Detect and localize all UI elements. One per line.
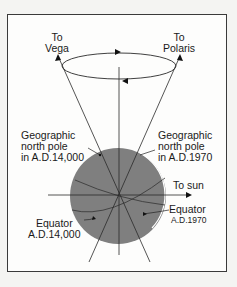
label-line: Polaris <box>163 43 195 54</box>
label-line: Equator <box>169 204 206 215</box>
label-line: A.D.1970 <box>169 215 206 226</box>
label-pole-14000: Geographic north pole in A.D.14,000 <box>21 130 84 163</box>
label-equator-1970: Equator A.D.1970 <box>169 204 206 226</box>
label-line: in A.D.1970 <box>158 152 212 163</box>
label-to-sun: To sun <box>173 180 204 191</box>
label-equator-14000: Equator A.D.14,000 <box>28 218 81 240</box>
vega-arrow-icon <box>55 54 61 61</box>
label-to-polaris: To Polaris <box>163 32 195 54</box>
label-line: Vega <box>45 43 69 54</box>
sun-arrow-icon <box>186 192 192 198</box>
label-pole-1970: Geographic north pole in A.D.1970 <box>158 130 212 163</box>
label-line: A.D.14,000 <box>28 229 81 240</box>
label-line: in A.D.14,000 <box>21 152 84 163</box>
polaris-arrow-icon <box>177 54 183 61</box>
label-to-vega: To Vega <box>45 32 69 54</box>
arrow-right-icon <box>115 49 121 55</box>
